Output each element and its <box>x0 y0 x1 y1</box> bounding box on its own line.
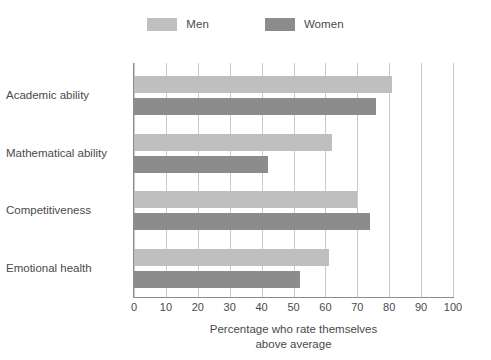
x-tick-30: 30 <box>224 302 236 313</box>
bar-men-academic-ability <box>134 76 392 93</box>
bar-women-competitiveness <box>134 213 370 230</box>
legend-label-women: Women <box>304 19 344 31</box>
x-tick-60: 60 <box>319 302 331 313</box>
bar-men-competitiveness <box>134 191 357 208</box>
x-axis-title-line2: above average <box>134 337 453 352</box>
chart-legend: Men Women <box>0 18 491 31</box>
x-axis-line <box>134 297 454 298</box>
plot-area <box>134 63 453 297</box>
x-tick-0: 0 <box>131 302 137 313</box>
legend-label-men: Men <box>186 19 209 31</box>
x-tick-90: 90 <box>415 302 427 313</box>
gridline-90 <box>421 63 422 297</box>
x-tick-40: 40 <box>255 302 267 313</box>
legend-swatch-women <box>265 18 295 31</box>
gridline-80 <box>389 63 390 297</box>
bar-women-academic-ability <box>134 98 376 115</box>
x-tick-50: 50 <box>287 302 299 313</box>
bar-chart: Men Women Academic abilityMathematical a… <box>0 0 491 360</box>
y-axis-label-academic-ability: Academic ability <box>6 90 128 102</box>
bar-women-mathematical-ability <box>134 156 268 173</box>
x-tick-10: 10 <box>160 302 172 313</box>
bar-women-emotional-health <box>134 271 300 288</box>
legend-swatch-men <box>147 18 177 31</box>
x-axis-title-line1: Percentage who rate themselves <box>134 322 453 337</box>
x-tick-70: 70 <box>351 302 363 313</box>
y-axis-label-emotional-health: Emotional health <box>6 263 128 275</box>
y-axis-line <box>133 63 134 298</box>
y-axis-label-mathematical-ability: Mathematical ability <box>6 148 128 160</box>
x-tick-100: 100 <box>444 302 462 313</box>
y-axis-label-competitiveness: Competitiveness <box>6 205 128 217</box>
x-tick-80: 80 <box>383 302 395 313</box>
bar-men-emotional-health <box>134 249 329 266</box>
gridline-100 <box>453 63 454 297</box>
legend-entry-men: Men <box>147 18 209 31</box>
x-axis-title: Percentage who rate themselves above ave… <box>134 322 453 352</box>
legend-entry-women: Women <box>265 18 344 31</box>
bar-men-mathematical-ability <box>134 134 332 151</box>
x-tick-20: 20 <box>192 302 204 313</box>
y-axis-category-labels: Academic abilityMathematical abilityComp… <box>6 63 128 297</box>
